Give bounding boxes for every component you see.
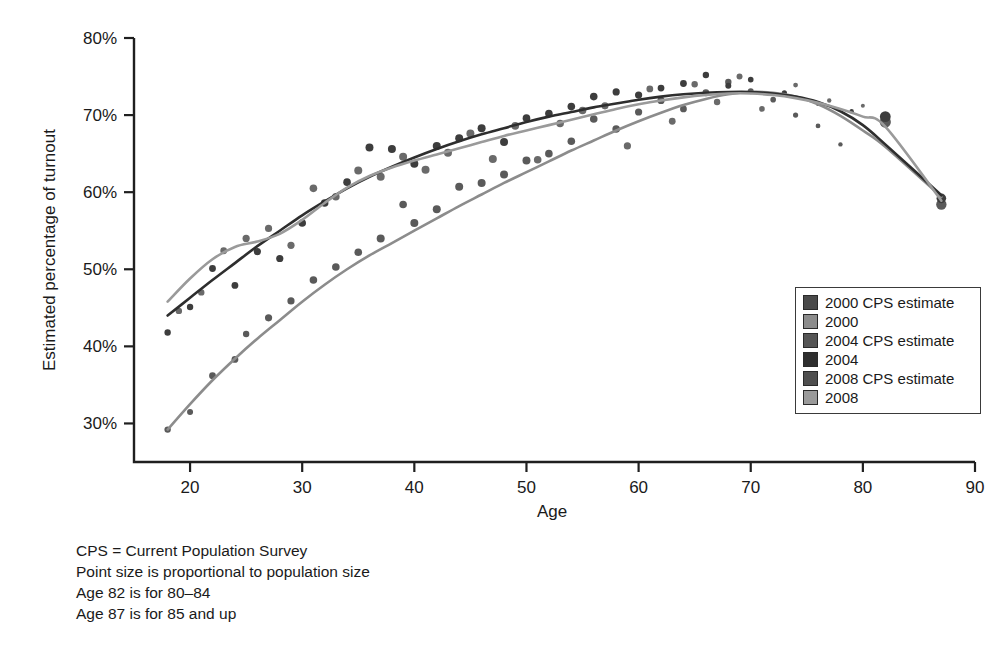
data-point	[816, 123, 821, 128]
data-point	[725, 83, 731, 89]
legend-swatch-icon	[803, 390, 818, 405]
y-axis-label: Estimated percentage of turnout	[40, 129, 59, 371]
x-axis-label: Age	[537, 502, 567, 521]
x-tick-label: 50	[517, 478, 536, 497]
data-point	[209, 265, 216, 272]
data-point	[759, 106, 765, 112]
data-point	[187, 409, 193, 415]
data-point	[332, 263, 340, 271]
x-tick-label: 70	[741, 478, 760, 497]
data-point	[164, 329, 170, 335]
y-tick-label: 70%	[83, 106, 117, 125]
data-point	[500, 170, 508, 178]
data-point	[265, 314, 272, 321]
data-point	[635, 108, 642, 115]
data-point	[287, 297, 294, 304]
legend-swatch-icon	[803, 371, 818, 386]
data-point	[187, 304, 193, 310]
data-point	[500, 138, 508, 146]
legend-swatch-icon	[803, 295, 818, 310]
legend-item[interactable]: 2000 CPS estimate	[803, 293, 973, 312]
legend-label: 2004	[825, 351, 858, 368]
trend-line-2008	[168, 93, 942, 301]
data-point	[880, 111, 891, 122]
data-point	[624, 142, 631, 149]
data-point	[422, 166, 430, 174]
data-point	[478, 124, 486, 132]
legend-swatch-icon	[803, 314, 818, 329]
footnote-line: Age 87 is for 85 and up	[76, 603, 370, 624]
y-tick-label: 60%	[83, 183, 117, 202]
y-tick-label: 40%	[83, 337, 117, 356]
data-point	[410, 219, 418, 227]
data-point	[568, 138, 576, 146]
trend-line-2004	[168, 92, 942, 316]
legend-label: 2000 CPS estimate	[825, 294, 954, 311]
data-point	[265, 225, 272, 232]
legend-item[interactable]: 2008	[803, 388, 973, 407]
footnote-line: CPS = Current Population Survey	[76, 540, 370, 561]
x-tick-label: 80	[853, 478, 872, 497]
data-point	[399, 201, 407, 209]
data-point	[714, 99, 720, 105]
data-point	[658, 85, 665, 92]
data-point	[748, 77, 754, 83]
turnout-by-age-chart: 30%40%50%60%70%80%2030405060708090 Age E…	[0, 0, 1000, 654]
x-tick-label: 90	[966, 478, 985, 497]
data-point	[354, 249, 362, 257]
data-point	[737, 74, 743, 80]
data-point	[568, 103, 576, 111]
legend: 2000 CPS estimate20002004 CPS estimate20…	[795, 287, 981, 414]
data-point	[287, 242, 294, 249]
legend-label: 2008	[825, 389, 858, 406]
x-tick-label: 40	[405, 478, 424, 497]
data-point	[545, 150, 553, 158]
footnotes: CPS = Current Population SurveyPoint siz…	[76, 540, 370, 624]
y-tick-label: 30%	[83, 414, 117, 433]
data-point	[243, 235, 250, 242]
legend-item[interactable]: 2000	[803, 312, 973, 331]
data-point	[354, 167, 362, 175]
data-point	[522, 157, 530, 165]
legend-item[interactable]: 2004 CPS estimate	[803, 331, 973, 350]
legend-label: 2008 CPS estimate	[825, 370, 954, 387]
data-point	[838, 142, 842, 146]
data-point	[669, 118, 676, 125]
data-point	[691, 81, 697, 87]
data-point	[793, 83, 798, 88]
data-point	[590, 93, 598, 101]
data-point	[646, 85, 653, 92]
y-tick-label: 80%	[83, 29, 117, 48]
legend-item[interactable]: 2004	[803, 350, 973, 369]
data-point	[489, 155, 497, 163]
data-point	[861, 104, 865, 108]
data-point	[770, 97, 776, 103]
x-tick-label: 60	[629, 478, 648, 497]
footnote-line: Point size is proportional to population…	[76, 561, 370, 582]
legend-label: 2000	[825, 313, 858, 330]
data-point	[455, 183, 463, 191]
data-point	[388, 145, 396, 153]
legend-swatch-icon	[803, 333, 818, 348]
data-point	[310, 185, 318, 193]
data-point	[613, 88, 620, 95]
data-point	[310, 276, 318, 284]
legend-label: 2004 CPS estimate	[825, 332, 954, 349]
data-point	[377, 234, 385, 242]
data-point	[478, 179, 486, 187]
data-point	[793, 112, 798, 117]
legend-swatch-icon	[803, 352, 818, 367]
footnote-line: Age 82 is for 80–84	[76, 582, 370, 603]
data-point	[534, 156, 542, 164]
data-point	[433, 205, 441, 213]
y-tick-label: 50%	[83, 260, 117, 279]
data-point	[827, 98, 831, 102]
data-point	[703, 72, 709, 78]
x-tick-label: 30	[293, 478, 312, 497]
legend-item[interactable]: 2008 CPS estimate	[803, 369, 973, 388]
data-point	[243, 331, 249, 337]
data-point	[276, 255, 283, 262]
tick-labels: 30%40%50%60%70%80%2030405060708090	[83, 29, 984, 497]
data-point	[365, 143, 373, 151]
data-point	[635, 91, 642, 98]
